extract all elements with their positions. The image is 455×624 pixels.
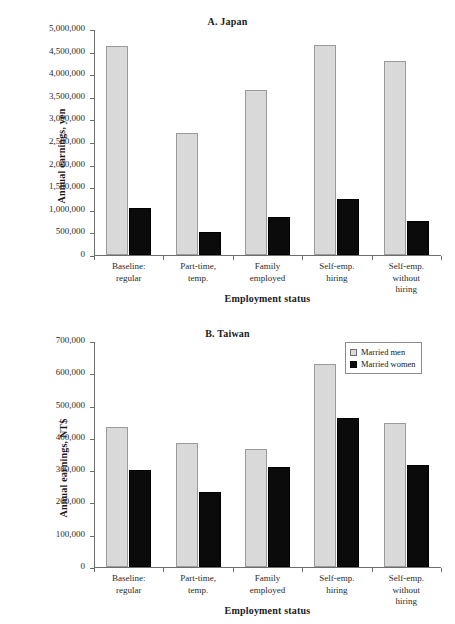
bar-japan-3-women [337, 199, 359, 255]
x-axis-category-label: Self-emp. without hiring [372, 573, 441, 608]
y-axis-line-japan [94, 30, 95, 256]
bar-taiwan-4-men [384, 423, 406, 567]
bar-taiwan-2-women [268, 467, 290, 567]
x-axis-category-label: Baseline: regular [94, 261, 163, 284]
bar-taiwan-3-women [337, 418, 359, 567]
x-axis-tick [372, 568, 373, 572]
bar-japan-1-men [176, 133, 198, 255]
y-axis-tick: 500,000 [90, 407, 94, 408]
x-axis-tick [441, 256, 442, 260]
x-axis-line-japan [94, 255, 441, 256]
y-axis-tick-label: 700,000 [56, 335, 85, 345]
bar-japan-3-men [314, 45, 336, 255]
y-axis-tick-label: 3,500,000 [49, 91, 85, 101]
y-axis-tick-label: 0 [81, 561, 86, 571]
legend-item-married-men: Married men [350, 346, 416, 358]
x-axis-category-label: Part-time, temp. [163, 573, 232, 596]
plot-area-japan: 0500,0001,000,0001,500,0002,000,0002,500… [94, 30, 441, 256]
y-axis-tick-label: 3,000,000 [49, 113, 85, 123]
plot-area-taiwan: 0100,000200,000300,000400,000500,000600,… [94, 342, 441, 568]
legend-swatch-icon [350, 361, 357, 368]
y-axis-tick: 4,000,000 [90, 75, 94, 76]
y-axis-tick-label: 4,500,000 [49, 46, 85, 56]
y-axis-tick-label: 1,500,000 [49, 181, 85, 191]
legend-item-label: Married men [361, 346, 405, 358]
y-axis-tick-label: 4,000,000 [49, 68, 85, 78]
y-axis-tick-label: 500,000 [56, 226, 85, 236]
y-axis-tick: 200,000 [90, 503, 94, 504]
bar-taiwan-0-women [129, 470, 151, 567]
y-axis-line-taiwan [94, 342, 95, 568]
x-axis-tick [302, 256, 303, 260]
x-axis-tick [94, 568, 95, 572]
bar-taiwan-1-men [176, 443, 198, 567]
bar-japan-2-women [268, 217, 290, 255]
y-axis-tick-label: 1,000,000 [49, 204, 85, 214]
bar-japan-4-women [407, 221, 429, 255]
y-axis-tick: 2,500,000 [90, 143, 94, 144]
y-axis-tick: 3,000,000 [90, 120, 94, 121]
x-axis-tick [233, 568, 234, 572]
x-axis-tick [94, 256, 95, 260]
y-axis-tick-label: 2,500,000 [49, 136, 85, 146]
bar-taiwan-3-men [314, 364, 336, 567]
bar-taiwan-0-men [106, 427, 128, 567]
y-axis-tick: 4,500,000 [90, 53, 94, 54]
y-axis-tick-label: 500,000 [56, 400, 85, 410]
y-axis-tick: 400,000 [90, 439, 94, 440]
y-axis-tick-label: 600,000 [56, 367, 85, 377]
legend-item-married-women: Married women [350, 358, 416, 370]
y-axis-tick-label: 5,000,000 [49, 23, 85, 33]
bar-japan-0-men [106, 46, 128, 255]
y-axis-tick-label: 300,000 [56, 464, 85, 474]
y-axis-tick: 1,500,000 [90, 188, 94, 189]
x-axis-category-label: Family employed [233, 573, 302, 596]
bar-japan-4-men [384, 61, 406, 255]
x-axis-line-taiwan [94, 567, 441, 568]
y-axis-tick-label: 0 [81, 249, 86, 259]
y-axis-tick: 3,500,000 [90, 98, 94, 99]
x-axis-category-label: Family employed [233, 261, 302, 284]
chart-panel-japan: A. Japan Annual earnings, yen 0500,0001,… [0, 0, 455, 312]
legend-swatch-icon [350, 349, 357, 356]
x-axis-tick [302, 568, 303, 572]
y-axis-tick: 700,000 [90, 342, 94, 343]
bar-taiwan-2-men [245, 449, 267, 567]
y-axis-tick-label: 200,000 [56, 496, 85, 506]
y-axis-tick-label: 2,000,000 [49, 159, 85, 169]
y-axis-tick-label: 400,000 [56, 432, 85, 442]
legend-item-label: Married women [361, 358, 416, 370]
y-axis-tick: 500,000 [90, 233, 94, 234]
x-axis-tick [372, 256, 373, 260]
y-axis-tick: 5,000,000 [90, 30, 94, 31]
chart-legend: Married menMarried women [345, 342, 422, 374]
x-axis-category-label: Self-emp. hiring [302, 573, 371, 596]
y-axis-tick: 100,000 [90, 536, 94, 537]
x-axis-tick [163, 568, 164, 572]
x-axis-category-label: Baseline: regular [94, 573, 163, 596]
y-axis-tick-label: 100,000 [56, 529, 85, 539]
y-axis-tick: 2,000,000 [90, 166, 94, 167]
y-axis-tick: 600,000 [90, 374, 94, 375]
x-axis-category-label: Self-emp. without hiring [372, 261, 441, 296]
x-axis-tick [163, 256, 164, 260]
x-axis-tick [441, 568, 442, 572]
x-axis-tick [233, 256, 234, 260]
bar-japan-2-men [245, 90, 267, 255]
bar-taiwan-4-women [407, 465, 429, 567]
x-axis-category-label: Part-time, temp. [163, 261, 232, 284]
x-axis-category-label: Self-emp. hiring [302, 261, 371, 284]
y-axis-tick: 1,000,000 [90, 211, 94, 212]
bar-taiwan-1-women [199, 492, 221, 567]
y-axis-tick: 300,000 [90, 471, 94, 472]
bar-japan-1-women [199, 232, 221, 256]
bar-japan-0-women [129, 208, 151, 255]
